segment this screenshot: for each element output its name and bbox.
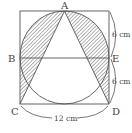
label-a: A <box>60 0 69 11</box>
label-b: B <box>8 53 15 64</box>
geometry-diagram: A B C D E 6 cm 6 cm 12 cm <box>0 0 132 133</box>
label-c: C <box>11 106 19 117</box>
bottom-bracket-right <box>77 106 108 118</box>
dimension-lower-right: 6 cm <box>112 77 130 86</box>
dimension-upper-right: 6 cm <box>112 30 130 39</box>
bottom-bracket-left <box>21 106 52 118</box>
label-e: E <box>112 53 119 64</box>
upper-hatched-region <box>20 11 109 104</box>
label-d: D <box>112 106 120 117</box>
dimension-bottom: 12 cm <box>54 114 77 123</box>
